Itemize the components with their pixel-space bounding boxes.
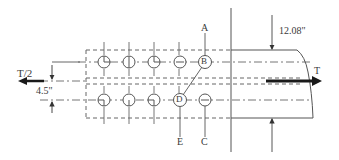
point-e-label: E xyxy=(177,137,183,147)
bolt xyxy=(148,94,160,106)
bolt-row-lower xyxy=(98,94,211,107)
bolt xyxy=(123,94,135,106)
load-arrow-right xyxy=(266,76,322,86)
load-label-left: T/2 xyxy=(17,68,32,79)
point-c-label: C xyxy=(201,137,208,147)
row-spacing-label: 4.5" xyxy=(36,86,53,96)
lap-plate-outline xyxy=(86,50,300,118)
bolt xyxy=(98,94,110,106)
bolt xyxy=(98,56,110,68)
bolt-ticks xyxy=(104,42,179,124)
bolt xyxy=(174,56,186,68)
diagram-canvas xyxy=(0,0,339,160)
point-d-label: D xyxy=(176,95,183,104)
splice-diagram: T/2 T 12.08" 4.5" A B D E C xyxy=(0,0,339,160)
diagonal-b-d xyxy=(183,67,202,95)
plate-width-label: 12.08" xyxy=(279,26,306,36)
point-b-label: B xyxy=(201,57,207,66)
load-label-right: T xyxy=(314,66,320,76)
point-a-label: A xyxy=(201,23,208,33)
bolt xyxy=(199,94,211,106)
bolt xyxy=(123,56,135,68)
bolt xyxy=(148,56,160,68)
